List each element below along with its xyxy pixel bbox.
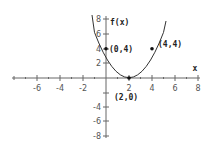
y-tick-label: -4 (93, 103, 101, 112)
y-tick-label: 8 (96, 15, 101, 24)
function-plot: -6 -4 -2 2 4 6 8 8 6 4 2 -4 -6 -8 f(x) x… (0, 0, 208, 149)
y-axis-label: f(x) (110, 18, 129, 27)
x-axis-label: x (193, 64, 198, 73)
x-tick-label: 8 (195, 84, 200, 93)
parabola-curve-ext (92, 15, 95, 32)
point-label: (4,4) (158, 40, 182, 49)
point-label: (0,4) (109, 45, 133, 54)
x-tick-label: -2 (79, 84, 87, 93)
y-tick-label: -8 (93, 132, 101, 141)
x-tick-label: 6 (172, 84, 177, 93)
point-label: (2,0) (114, 93, 138, 102)
y-tick-label: 2 (96, 59, 101, 68)
x-tick-label: 2 (126, 84, 131, 93)
point-4-4 (150, 47, 154, 51)
x-tick-label: -6 (33, 84, 41, 93)
point-0-4 (104, 47, 108, 51)
y-tick-label: -6 (93, 117, 101, 126)
point-2-0 (127, 76, 131, 80)
x-tick-label: 4 (149, 84, 154, 93)
x-tick-label: -4 (56, 84, 64, 93)
